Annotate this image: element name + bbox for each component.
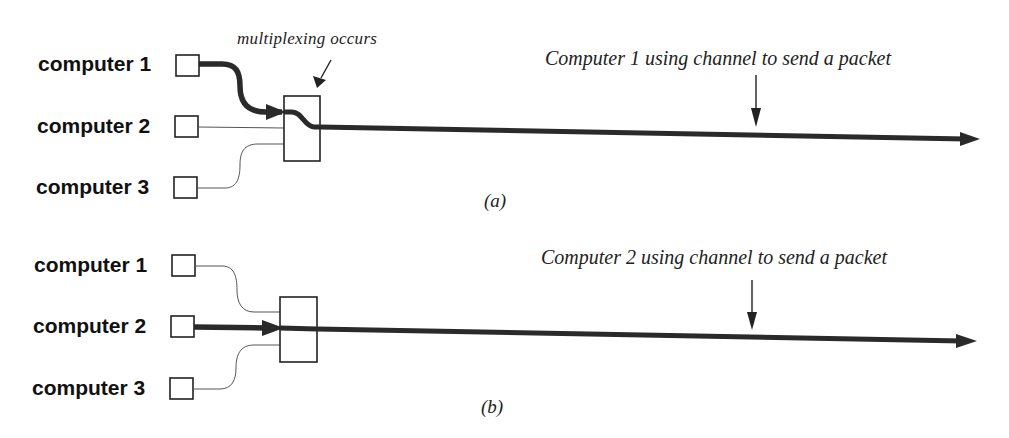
computer-3-box-a xyxy=(174,177,197,198)
shared-channel-b xyxy=(317,329,962,341)
computer-3-link-b xyxy=(193,345,280,389)
multiplexing-annotation: multiplexing occurs xyxy=(237,30,377,47)
computer-1-link-b xyxy=(195,266,280,312)
computer-3-label-b: computer 3 xyxy=(32,377,145,398)
mux-input-arrow-a xyxy=(266,104,286,120)
panel-b-graphics xyxy=(170,255,977,399)
channel-pointer-head-b xyxy=(747,312,757,330)
panel-a-sublabel: (a) xyxy=(484,191,506,210)
multiplexing-pointer-line xyxy=(321,60,331,78)
multiplexing-pointer-head xyxy=(313,76,326,88)
multiplexing-diagram: computer 1 computer 2 computer 3 multipl… xyxy=(0,0,1009,438)
computer-2-active-path-b xyxy=(194,327,266,328)
computer-1-label-b: computer 1 xyxy=(34,254,147,275)
panel-b-sublabel: (b) xyxy=(481,397,503,416)
computer-3-label-a: computer 3 xyxy=(36,176,149,197)
computer-3-box-b xyxy=(170,378,193,399)
panel-a-graphics xyxy=(174,55,980,198)
channel-annotation-a: Computer 1 using channel to send a packe… xyxy=(545,48,891,68)
channel-annotation-b: Computer 2 using channel to send a packe… xyxy=(541,247,887,267)
computer-1-box-b xyxy=(172,255,195,276)
channel-pointer-head-a xyxy=(751,108,761,127)
mux-internal-path-b xyxy=(280,328,317,329)
computer-1-active-path-a xyxy=(199,64,282,112)
computer-1-label-a: computer 1 xyxy=(38,53,151,74)
computer-1-box-a xyxy=(176,55,199,76)
computer-2-label-a: computer 2 xyxy=(37,115,150,136)
shared-channel-a xyxy=(320,127,966,139)
channel-end-arrow-b xyxy=(956,334,977,348)
channel-end-arrow-a xyxy=(960,132,980,146)
computer-2-box-b xyxy=(171,316,194,337)
computer-2-link-a xyxy=(198,127,284,128)
computer-2-box-a xyxy=(175,116,198,137)
computer-2-label-b: computer 2 xyxy=(33,315,146,336)
computer-3-link-a xyxy=(197,144,284,188)
